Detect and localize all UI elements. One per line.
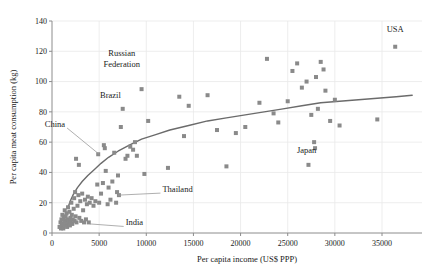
data-point-marker [206,93,210,97]
data-point-marker [91,204,95,208]
y-tick-label: 80 [39,108,47,117]
data-point-marker [88,201,92,205]
data-point-marker [69,201,73,205]
data-point-marker [78,199,82,203]
data-point-marker [72,196,76,200]
x-tick-label: 10000 [136,239,156,248]
data-point-marker [103,146,107,150]
y-tick-label: 20 [39,199,47,208]
data-point-marker [90,196,94,200]
annotation-label: Brazil [100,90,121,100]
data-point-marker [80,192,84,196]
annotation-label: USA [387,24,405,34]
annotation-label: India [126,217,144,227]
x-tick-label: 15000 [183,239,203,248]
data-point-marker [323,89,327,93]
data-point-marker [314,75,318,79]
data-point-marker [322,67,326,71]
data-point-marker [74,214,78,218]
data-point-marker [140,87,144,91]
annotation-label: China [45,119,66,129]
data-point-marker [121,107,125,111]
data-point-marker [74,157,78,161]
data-point-marker [125,154,129,158]
annotation-label: Thailand [162,184,193,194]
data-point-marker [119,125,123,129]
data-point-marker [166,166,170,170]
data-point-marker [333,98,337,102]
data-point-marker [72,207,76,211]
data-point-marker [110,180,114,184]
data-point-marker [81,208,85,212]
data-point-marker [107,186,111,190]
data-point-marker [375,117,379,121]
data-point-marker [97,201,101,205]
data-point-marker [290,69,294,73]
data-point-marker [93,199,97,203]
data-point-marker [106,202,110,206]
scatter-chart: 0204060801001201400500010000150002000025… [0,0,435,279]
x-axis-title: Per capita income (US$ PPP) [197,254,297,264]
x-tick-label: 0 [50,239,54,248]
data-point-marker [316,107,320,111]
data-point-marker [393,45,397,49]
data-point-marker [96,152,100,156]
x-tick-label: 5000 [91,239,107,248]
annotation-leader-line [67,128,99,154]
y-tick-label: 0 [43,229,47,238]
data-point-marker [276,120,280,124]
data-point-marker [243,125,247,129]
data-point-marker [306,163,310,167]
y-tick-label: 100 [35,77,47,86]
y-tick-label: 140 [35,17,47,26]
data-point-marker [99,192,103,196]
data-point-marker [312,140,316,144]
data-point-marker [309,113,313,117]
data-point-marker [295,61,299,65]
data-point-marker [95,183,99,187]
chart-canvas: 0204060801001201400500010000150002000025… [0,0,435,279]
x-tick-label: 35000 [372,239,392,248]
y-tick-label: 40 [39,168,47,177]
data-point-marker [133,140,137,144]
data-point-marker [215,128,219,132]
annotation-label: Federation [104,59,141,69]
data-point-marker [300,86,304,90]
annotation-leader-line [90,224,124,227]
y-tick-label: 120 [35,47,47,56]
data-point-marker [70,213,74,217]
data-point-marker [66,205,70,209]
x-tick-label: 20000 [231,239,251,248]
data-point-marker [319,60,323,64]
data-point-marker [77,163,81,167]
data-point-marker [338,123,342,127]
x-axis-ticks: 05000100001500020000250003000035000 [50,233,392,248]
data-point-marker [224,164,228,168]
annotations: USARussianFederationBrazilChinaThailandI… [45,24,405,228]
data-point-marker [104,169,108,173]
data-point-marker [75,220,79,224]
data-point-marker [286,99,290,103]
data-point-marker [114,201,118,205]
x-tick-label: 30000 [325,239,345,248]
data-point-marker [131,148,135,152]
data-point-marker [272,111,276,115]
data-point-marker [101,181,105,185]
data-point-marker [234,131,238,135]
data-point-marker [86,195,90,199]
annotation-leader-line [118,193,160,195]
data-point-marker [328,119,332,123]
data-point-marker [75,204,79,208]
data-point-marker [112,151,116,155]
y-axis-title: Per capita meat consumption (kg) [8,69,18,184]
data-point-marker [116,173,120,177]
data-point-marker [146,119,150,123]
data-point-marker [76,193,80,197]
data-point-marker [177,95,181,99]
annotation-label: Japan [297,145,317,155]
annotation-label: Russian [108,48,136,58]
data-point-marker [135,154,139,158]
data-point-marker [108,198,112,202]
data-point-marker [142,172,146,176]
data-point-marker [265,57,269,61]
